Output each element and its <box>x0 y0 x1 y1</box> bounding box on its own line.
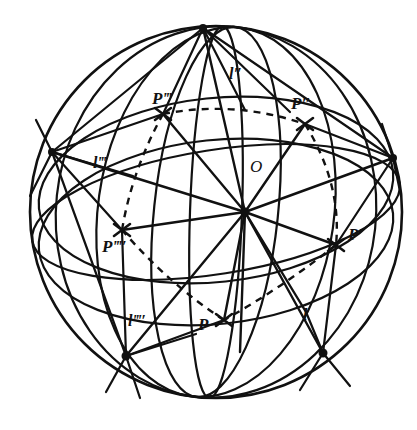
label-center-o: O <box>250 158 262 175</box>
spoke-west-to-ppp <box>52 114 163 152</box>
label-point-p-double-prime: P″ <box>291 95 311 112</box>
chord-center-to-l-tick <box>245 212 306 312</box>
dashed-edge-pppp-to-ppp <box>122 114 163 230</box>
great-circle-lower-band <box>29 122 402 342</box>
label-line-l: l <box>303 307 307 323</box>
label-line-l-quadruple-prime: l‴′ <box>128 313 146 329</box>
label-point-p-triple-prime: P‴ <box>152 90 172 107</box>
spoke-se-to-pprime <box>323 245 336 353</box>
east-node-dot <box>389 154 397 162</box>
dashed-edge-ppp-to-pp <box>163 109 305 124</box>
southwest-node-dot <box>122 352 131 361</box>
chord-center-to-pprime <box>245 212 336 245</box>
label-point-p-quadruple-prime: P‴′ <box>102 238 127 255</box>
spoke-west-short-b <box>36 120 52 152</box>
north-node-dot <box>199 24 207 32</box>
chord-center-to-pppp <box>122 212 245 230</box>
great-circle-meridian-c <box>37 10 394 413</box>
label-point-p: P <box>198 316 208 333</box>
west-node-dot <box>48 148 56 156</box>
spherical-geometry-figure: P P′ P″ P‴ P‴′ l l″ l‴ l‴′ O <box>0 0 417 430</box>
label-line-l-double-prime: l″ <box>229 66 242 82</box>
center-node-dot <box>241 208 250 217</box>
chord-center-to-east <box>245 158 393 212</box>
sphere-diagram-svg <box>0 0 417 430</box>
spoke-se-to-l-tick <box>306 312 323 353</box>
spoke-north-to-pp-arm <box>203 28 290 112</box>
radial-chords-group <box>52 28 393 356</box>
vertex-marker-pp <box>297 118 313 130</box>
great-circles-group <box>23 10 410 413</box>
label-point-p-prime: P′ <box>348 226 363 243</box>
spoke-se-short-a <box>323 353 350 386</box>
label-line-l-triple-prime: l‴ <box>93 155 106 171</box>
chord-center-to-north <box>203 28 245 212</box>
great-circle-equator <box>23 122 410 303</box>
southeast-node-dot <box>319 349 328 358</box>
